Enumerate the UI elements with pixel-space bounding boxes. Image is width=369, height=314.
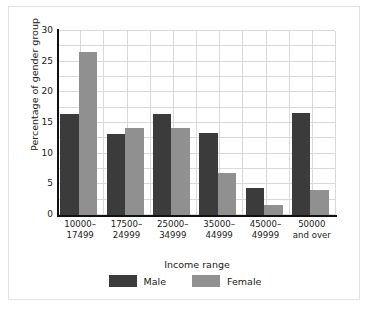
x-axis-category-labels: 10000–1749917500–2499925000–3499935000–4…	[57, 219, 335, 253]
chart-legend: MaleFemale	[9, 275, 361, 287]
x-category-label-line: 50000	[285, 219, 339, 230]
legend-label-male: Male	[144, 276, 167, 287]
y-axis-title: Percentage of gender group	[29, 10, 40, 160]
x-axis-line	[57, 215, 337, 217]
bar-female-2	[171, 128, 190, 215]
gridline-vertical	[266, 31, 267, 215]
x-category-label-5: 50000and over	[285, 219, 339, 241]
bar-female-5	[310, 190, 329, 215]
legend-swatch-female	[192, 275, 220, 287]
y-tick-label-0: 0	[31, 210, 53, 219]
legend-swatch-male	[109, 275, 137, 287]
x-axis-title: Income range	[57, 259, 337, 270]
y-tick-label-5: 5	[31, 179, 53, 188]
x-category-label-line: and over	[285, 230, 339, 241]
bar-female-3	[218, 173, 237, 215]
legend-label-female: Female	[227, 276, 261, 287]
legend-entry-male[interactable]: Male	[109, 275, 167, 287]
bar-male-2	[153, 114, 172, 215]
bar-male-3	[199, 133, 218, 215]
bar-male-5	[292, 113, 311, 215]
legend-entry-female[interactable]: Female	[192, 275, 261, 287]
bar-male-1	[107, 134, 126, 215]
gridline-vertical	[335, 31, 336, 215]
gridline-vertical	[150, 31, 151, 215]
y-axis-line	[57, 29, 59, 217]
bar-female-0	[79, 52, 98, 215]
bar-female-4	[264, 205, 283, 215]
gridline-vertical	[103, 31, 104, 215]
chart-figure-card: 051015202530 Percentage of gender group …	[8, 6, 360, 300]
gridline-vertical	[196, 31, 197, 215]
plot-area	[57, 31, 335, 215]
bar-female-1	[125, 128, 144, 215]
gridline-vertical	[242, 31, 243, 215]
gridline-vertical	[312, 31, 313, 215]
bar-male-0	[60, 114, 79, 215]
bar-male-4	[246, 188, 265, 215]
gridline-vertical	[289, 31, 290, 215]
